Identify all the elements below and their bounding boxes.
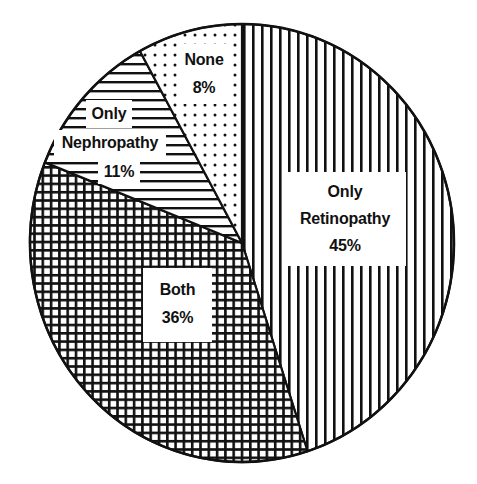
label-both-value: 36%	[143, 304, 212, 332]
label-none-value: 8%	[178, 74, 230, 102]
label-retinopathy-line1: Only	[284, 178, 406, 205]
label-both-line1: Both	[143, 276, 212, 304]
label-nephropathy-value: 11%	[98, 160, 140, 184]
label-both: Both 36%	[143, 268, 212, 342]
label-only-nephropathy-line2: Nephropathy	[54, 130, 166, 156]
label-only-nephropathy: Only	[86, 100, 132, 128]
label-nephropathy-line1: Only	[86, 100, 132, 128]
label-retinopathy-value: 45%	[284, 232, 406, 259]
label-none-line1: None	[178, 46, 230, 74]
label-nephropathy-line2: Nephropathy	[54, 130, 166, 156]
label-retinopathy-line2: Retinopathy	[284, 205, 406, 232]
label-none: None 8%	[178, 44, 230, 104]
label-only-retinopathy: Only Retinopathy 45%	[284, 172, 406, 266]
label-only-nephropathy-value: 11%	[98, 160, 140, 184]
